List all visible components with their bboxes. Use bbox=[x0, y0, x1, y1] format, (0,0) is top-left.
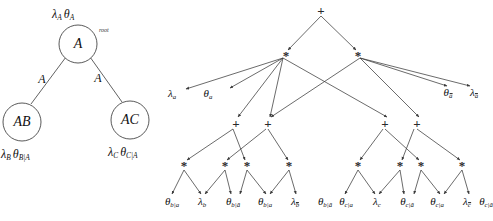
leaf-subscript: a bbox=[449, 93, 452, 100]
leaf-subscript: b bbox=[296, 202, 299, 209]
op-node-plus-root[interactable]: + bbox=[317, 4, 324, 17]
op-node-plus-3[interactable]: + bbox=[381, 117, 388, 130]
leaf-subscript: b|a bbox=[170, 201, 179, 208]
leaf-subscript: b bbox=[203, 201, 206, 208]
circuit-leaf[interactable]: θc|a bbox=[339, 196, 353, 209]
leaf-subscript: b|ā bbox=[323, 201, 332, 208]
op-node-times-left[interactable]: * bbox=[283, 49, 290, 62]
lambda-subscript: C bbox=[113, 151, 118, 160]
theta-subscript: B|A bbox=[19, 153, 30, 162]
op-node-times-7[interactable]: * bbox=[418, 159, 425, 172]
leaf-subscript: a bbox=[475, 93, 478, 100]
lambda-subscript: A bbox=[57, 13, 62, 22]
op-node-times-5[interactable]: * bbox=[355, 159, 362, 172]
circuit-leaf[interactable]: λc bbox=[373, 196, 381, 209]
ac-parameters: λCθC|A bbox=[108, 146, 138, 160]
leaf-subscript: c|ā bbox=[406, 201, 414, 208]
circuit-leaf[interactable]: λc bbox=[463, 196, 471, 209]
op-node-times-8[interactable]: * bbox=[459, 159, 466, 172]
circuit-leaf[interactable]: θc|a bbox=[430, 196, 444, 209]
lambda-subscript: B bbox=[6, 153, 11, 162]
op-node-plus-1[interactable]: + bbox=[232, 117, 239, 130]
leaf-subscript: c|ā bbox=[485, 201, 493, 208]
circuit-leaf[interactable]: λa bbox=[470, 87, 478, 100]
op-node-times-1[interactable]: * bbox=[181, 159, 188, 172]
op-node-times-3[interactable]: * bbox=[244, 159, 251, 172]
op-node-times-4[interactable]: * bbox=[286, 159, 293, 172]
circuit-leaf[interactable]: θc|ā bbox=[479, 196, 493, 209]
circuit-leaf[interactable]: λb bbox=[291, 196, 299, 209]
circuit-leaf[interactable]: θb|a bbox=[258, 196, 272, 209]
circuit-edges bbox=[172, 16, 470, 194]
leaf-subscript: a bbox=[209, 93, 212, 100]
circuit-leaf[interactable]: λa bbox=[168, 88, 176, 101]
op-node-times-right[interactable]: * bbox=[355, 49, 362, 62]
leaf-subscript: c|a bbox=[345, 201, 353, 208]
leaf-subscript: b|a bbox=[263, 201, 272, 208]
theta-subscript: C|A bbox=[126, 151, 138, 160]
circuit-leaf[interactable]: λb bbox=[198, 196, 206, 209]
branch-label-right: A bbox=[94, 71, 101, 86]
circuit-leaf[interactable]: θb|a bbox=[165, 196, 179, 209]
leaf-subscript: c bbox=[468, 202, 471, 209]
circuit-leaf[interactable]: θa bbox=[444, 87, 453, 100]
op-node-plus-2[interactable]: + bbox=[264, 117, 271, 130]
root-annotation: root bbox=[99, 27, 109, 33]
node-label-root: A bbox=[74, 37, 83, 51]
branch-label-left: A bbox=[38, 72, 45, 87]
leaf-subscript: a bbox=[173, 93, 176, 100]
op-node-times-6[interactable]: * bbox=[397, 159, 404, 172]
theta-subscript: A bbox=[70, 13, 75, 22]
ab-parameters: λBθB|A bbox=[1, 148, 30, 162]
op-node-times-2[interactable]: * bbox=[222, 159, 229, 172]
op-node-plus-4[interactable]: + bbox=[413, 117, 420, 130]
node-label-ab: AB bbox=[13, 115, 30, 129]
circuit-leaf[interactable]: θb|ā bbox=[226, 196, 240, 209]
node-label-ac: AC bbox=[121, 113, 139, 127]
leaf-subscript: c bbox=[378, 201, 381, 208]
branch-root-ab bbox=[31, 57, 66, 104]
circuit-leaf[interactable]: θa bbox=[204, 88, 213, 101]
circuit-leaf[interactable]: θc|ā bbox=[400, 196, 414, 209]
root-parameters: λAθA bbox=[52, 8, 74, 22]
circuit-leaf[interactable]: θb|ā bbox=[318, 196, 332, 209]
leaf-subscript: c|a bbox=[436, 201, 444, 208]
leaf-subscript: b|ā bbox=[231, 201, 240, 208]
